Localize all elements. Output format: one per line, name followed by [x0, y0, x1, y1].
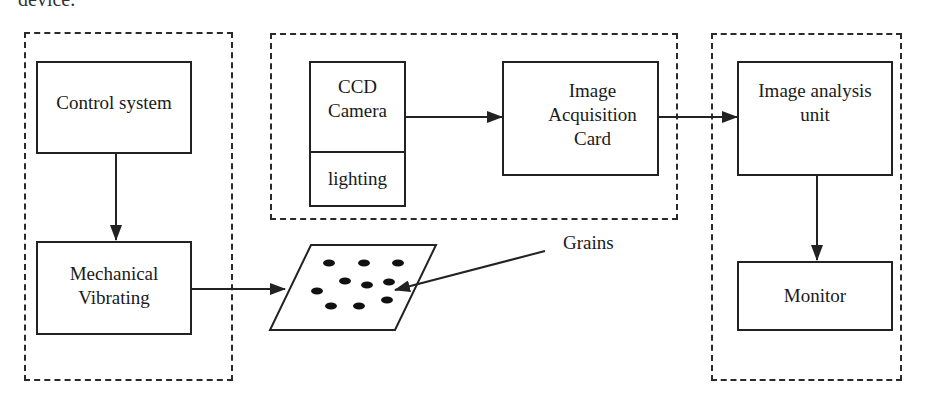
- caption-fragment: device.: [18, 0, 75, 11]
- image-acquisition-card-label: Image Acquisition Card: [548, 79, 637, 151]
- control-system-label: Control system: [56, 91, 172, 115]
- mechanical-vibrating-box: Mechanical Vibrating: [36, 241, 192, 335]
- image-analysis-unit-label: Image analysis unit: [758, 79, 871, 127]
- grain-dots: [311, 260, 404, 310]
- grain-tray: [270, 245, 436, 330]
- lighting-label: lighting: [328, 167, 387, 191]
- arrow-grains-label-to-tray: [395, 251, 545, 290]
- monitor-box: Monitor: [737, 261, 893, 331]
- control-system-box: Control system: [36, 61, 192, 154]
- mechanical-vibrating-label: Mechanical Vibrating: [70, 262, 159, 310]
- lighting-box: lighting: [309, 151, 406, 207]
- ccd-camera-box: CCD Camera: [309, 61, 406, 153]
- image-analysis-unit-box: Image analysis unit: [737, 61, 893, 176]
- monitor-label: Monitor: [784, 284, 846, 308]
- grains-label: Grains: [563, 232, 614, 254]
- image-acquisition-card-box: Image Acquisition Card: [502, 61, 659, 176]
- ccd-camera-label: CCD Camera: [328, 75, 387, 123]
